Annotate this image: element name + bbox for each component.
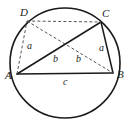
figure-canvas (0, 0, 130, 127)
geometry-figure: D C A B a a b b c (0, 0, 130, 127)
vertex-label-A: A (5, 70, 12, 81)
diagonal-label-b-right: b (76, 54, 81, 64)
side-label-a-right: a (99, 43, 104, 53)
side-label-a-left: a (27, 41, 32, 51)
side-label-c-bottom: c (63, 77, 67, 87)
side-DC-line (27, 21, 101, 22)
side-AB-line (17, 73, 113, 74)
vertex-label-C: C (102, 8, 109, 19)
vertex-label-B: B (117, 69, 124, 80)
diagonal-label-b-left: b (53, 54, 58, 64)
circumscribed-circle (10, 8, 120, 118)
vertex-label-D: D (20, 7, 28, 18)
